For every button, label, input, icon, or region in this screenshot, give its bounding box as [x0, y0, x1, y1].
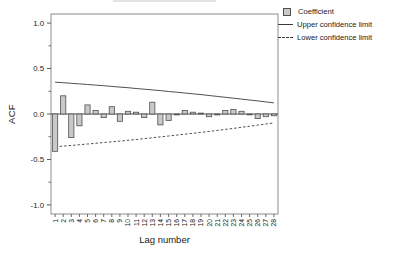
- x-tick-label: 11: [133, 219, 140, 226]
- x-tick-label: 4: [76, 219, 83, 223]
- y-tick-label: -1.0: [31, 201, 45, 210]
- legend-label-coefficient: Coefficient: [298, 5, 334, 18]
- x-tick-label: 3: [68, 219, 75, 223]
- acf-bar: [207, 114, 212, 117]
- acf-plot-figure: 1.00.50.0-0.5-1.012345678910111213141516…: [0, 0, 408, 253]
- x-tick-label: 1: [52, 219, 59, 223]
- x-tick-label: 22: [222, 219, 229, 227]
- acf-bar: [166, 114, 171, 120]
- x-tick-label: 24: [238, 219, 245, 227]
- acf-bar: [134, 112, 139, 114]
- x-tick-label: 28: [270, 219, 277, 227]
- acf-bar: [109, 107, 114, 114]
- x-tick-label: 12: [141, 219, 148, 227]
- acf-bar: [61, 96, 66, 114]
- legend-item-coefficient: Coefficient: [278, 5, 372, 18]
- x-tick-label: 15: [165, 219, 172, 227]
- acf-bar: [255, 114, 260, 119]
- x-tick-label: 10: [124, 219, 131, 227]
- acf-bar: [77, 114, 82, 126]
- solid-line-icon: [278, 24, 293, 25]
- acf-bar: [247, 114, 252, 115]
- y-tick-label: -0.5: [31, 155, 45, 164]
- acf-bar: [117, 114, 122, 121]
- acf-bar: [174, 114, 179, 115]
- x-tick-label: 2: [60, 219, 67, 223]
- acf-bar: [85, 105, 90, 114]
- y-tick-label: 0.0: [33, 110, 45, 119]
- x-tick-label: 18: [189, 219, 196, 227]
- acf-bar: [239, 111, 244, 114]
- acf-bar: [190, 112, 195, 114]
- acf-bar: [263, 114, 268, 117]
- lower-confidence-line: [55, 123, 274, 147]
- x-axis-title: Lag number: [51, 234, 278, 245]
- x-tick-label: 16: [173, 219, 180, 227]
- acf-bar: [93, 110, 98, 114]
- x-tick-label: 14: [157, 219, 164, 227]
- x-tick-label: 19: [197, 219, 204, 227]
- acf-bar: [231, 110, 236, 115]
- x-tick-label: 7: [100, 219, 107, 223]
- acf-bar: [53, 114, 58, 151]
- acf-bar: [101, 114, 106, 118]
- x-tick-label: 27: [262, 219, 269, 227]
- x-tick-label: 21: [214, 219, 221, 227]
- coefficient-square-icon: [283, 8, 291, 16]
- x-tick-label: 5: [84, 219, 91, 223]
- acf-bar: [150, 102, 155, 114]
- acf-bar: [182, 110, 187, 114]
- y-tick-label: 0.5: [33, 64, 45, 73]
- acf-bar: [142, 114, 147, 118]
- x-tick-label: 25: [246, 219, 253, 227]
- x-tick-label: 6: [92, 219, 99, 223]
- x-tick-label: 8: [108, 219, 115, 223]
- acf-bar: [125, 111, 130, 114]
- dashed-line-icon: [278, 37, 293, 38]
- acf-bar: [223, 110, 228, 114]
- acf-bar: [69, 114, 74, 138]
- x-tick-label: 9: [116, 219, 123, 223]
- acf-bar: [158, 114, 163, 125]
- x-tick-label: 17: [181, 219, 188, 227]
- acf-bar: [198, 113, 203, 114]
- y-tick-label: 1.0: [33, 19, 45, 28]
- legend-item-lower-limit: Lower confidence limit: [278, 31, 372, 44]
- legend-label-lower-limit: Lower confidence limit: [297, 31, 372, 44]
- x-tick-label: 23: [230, 219, 237, 227]
- y-axis-title: ACF: [6, 102, 17, 126]
- x-tick-label: 26: [254, 219, 261, 227]
- acf-bar: [271, 114, 276, 116]
- legend-label-upper-limit: Upper confidence limit: [297, 18, 372, 31]
- x-tick-label: 20: [206, 219, 213, 227]
- legend-item-upper-limit: Upper confidence limit: [278, 18, 372, 31]
- x-tick-label: 13: [149, 219, 156, 227]
- upper-confidence-line: [55, 82, 274, 103]
- legend: Coefficient Upper confidence limit Lower…: [278, 5, 372, 44]
- acf-bar: [215, 114, 220, 115]
